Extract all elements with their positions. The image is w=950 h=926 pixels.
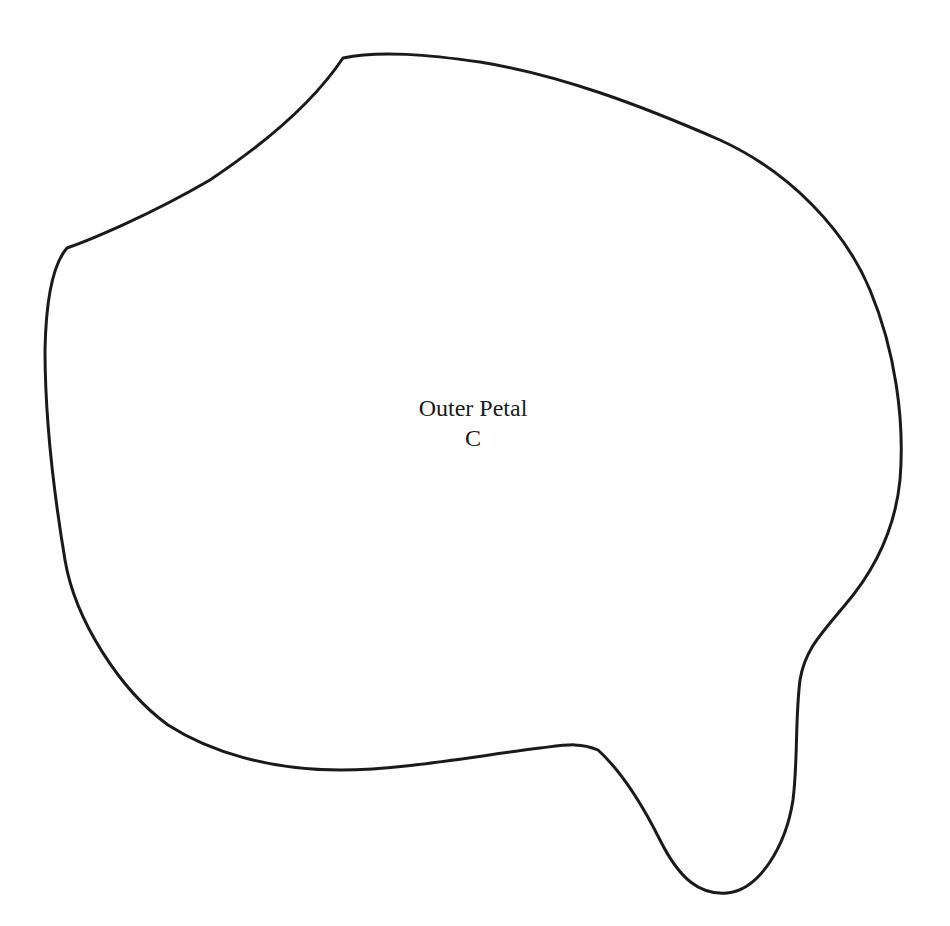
pattern-template <box>0 0 950 926</box>
outer-petal-outline <box>0 0 950 926</box>
piece-name-label: Outer Petal <box>0 393 948 423</box>
piece-letter-label: C <box>0 423 948 453</box>
